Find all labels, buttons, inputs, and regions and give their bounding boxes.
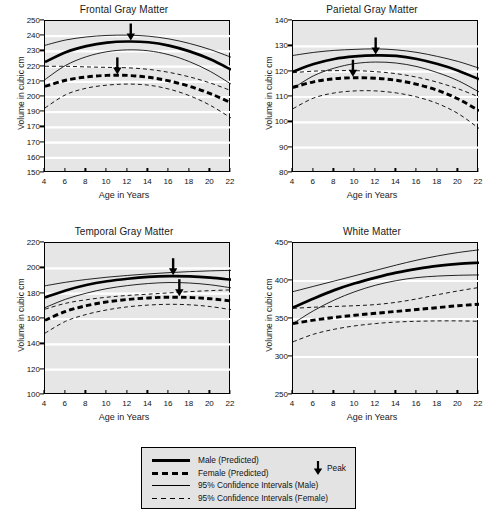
series-line <box>293 62 479 92</box>
x-tick-label: 10 <box>350 399 359 408</box>
chart-title: Frontal Gray Matter <box>0 4 248 15</box>
y-tick-mark <box>288 355 292 356</box>
y-tick-label: 220 <box>27 61 40 70</box>
y-tick-mark <box>40 141 44 142</box>
y-tick-label: 170 <box>27 122 40 131</box>
legend-item-label: Male (Predicted) <box>198 455 259 465</box>
series-line <box>45 75 231 103</box>
legend-item-female-pred: Female (Predicted) <box>150 467 328 480</box>
y-tick-label: 200 <box>27 92 40 101</box>
y-tick-label: 240 <box>27 31 40 40</box>
x-tick-label: 16 <box>412 399 421 408</box>
x-tick-mark <box>333 168 334 172</box>
legend-item-label: 95% Confidence Intervals (Male) <box>198 480 318 490</box>
x-tick-label: 12 <box>370 399 379 408</box>
x-tick-mark <box>395 390 396 394</box>
x-tick-mark <box>43 168 44 172</box>
y-tick-mark <box>40 50 44 51</box>
x-tick-label: 18 <box>184 399 193 408</box>
x-tick-label: 14 <box>391 399 400 408</box>
y-tick-label: 250 <box>27 16 40 25</box>
y-tick-mark <box>40 111 44 112</box>
x-tick-label: 16 <box>412 177 421 186</box>
legend-swatch-female-pred <box>150 467 192 479</box>
x-tick-mark <box>64 390 65 394</box>
x-tick-mark <box>415 390 416 394</box>
series-line <box>293 250 479 292</box>
x-tick-mark <box>436 168 437 172</box>
series-line <box>45 42 231 70</box>
x-tick-label: 4 <box>290 399 294 408</box>
y-tick-label: 160 <box>27 152 40 161</box>
y-tick-label: 120 <box>27 364 40 373</box>
y-tick-label: 100 <box>275 117 288 126</box>
plot-svg <box>45 21 231 173</box>
x-tick-label: 22 <box>226 177 235 186</box>
x-tick-label: 16 <box>164 177 173 186</box>
x-axis-ticks: 46810121416182022 <box>44 172 230 188</box>
x-tick-mark <box>167 168 168 172</box>
x-tick-label: 6 <box>62 399 66 408</box>
x-tick-label: 8 <box>331 399 335 408</box>
x-axis-label: Age in Years <box>0 190 248 200</box>
y-tick-mark <box>40 19 44 20</box>
x-axis-label: Age in Years <box>248 190 496 200</box>
chart-title: White Matter <box>248 226 496 237</box>
y-tick-mark <box>40 65 44 66</box>
x-tick-mark <box>209 168 210 172</box>
legend-swatch-male-pred <box>150 454 192 466</box>
chart-panel-temporal-gray-matter: Temporal Gray MatterVolume in cubic cm22… <box>0 222 248 434</box>
x-tick-mark <box>415 168 416 172</box>
series-line <box>293 71 479 97</box>
x-tick-label: 10 <box>102 177 111 186</box>
x-tick-mark <box>167 390 168 394</box>
y-tick-label: 230 <box>27 46 40 55</box>
plot-area <box>44 242 230 394</box>
y-tick-label: 80 <box>279 168 288 177</box>
y-axis-ticks: 250240230220210200190170170160150 <box>10 20 40 172</box>
y-tick-label: 200 <box>27 263 40 272</box>
x-tick-mark <box>229 390 230 394</box>
x-axis-label: Age in Years <box>0 412 248 422</box>
x-tick-mark <box>64 168 65 172</box>
plot-area <box>44 20 230 172</box>
y-tick-label: 450 <box>275 238 288 247</box>
y-tick-label: 90 <box>279 142 288 151</box>
y-tick-mark <box>40 35 44 36</box>
x-tick-mark <box>312 168 313 172</box>
x-tick-mark <box>333 390 334 394</box>
chart-panel-parietal-gray-matter: Parietal Gray MatterVolume in cubic cm14… <box>248 0 496 212</box>
x-tick-mark <box>477 390 478 394</box>
y-tick-label: 190 <box>27 107 40 116</box>
y-tick-mark <box>288 70 292 71</box>
x-tick-label: 6 <box>310 399 314 408</box>
x-tick-mark <box>209 390 210 394</box>
legend-item-label: 95% Confidence Intervals (Female) <box>198 493 328 503</box>
y-tick-label: 140 <box>27 339 40 348</box>
y-tick-mark <box>40 95 44 96</box>
y-tick-label: 250 <box>275 390 288 399</box>
x-axis-ticks: 46810121416182022 <box>292 172 478 188</box>
y-tick-mark <box>40 292 44 293</box>
x-tick-label: 8 <box>331 177 335 186</box>
x-axis-ticks: 46810121416182022 <box>292 394 478 410</box>
y-axis-ticks: 220200180160140120100 <box>10 242 40 394</box>
legend-item-male-pred: Male (Predicted) <box>150 454 328 467</box>
y-axis-ticks: 450400350300250 <box>258 242 288 394</box>
x-tick-label: 20 <box>205 177 214 186</box>
y-tick-label: 210 <box>27 76 40 85</box>
y-tick-mark <box>40 80 44 81</box>
x-tick-mark <box>85 168 86 172</box>
x-tick-mark <box>147 168 148 172</box>
x-tick-label: 10 <box>102 399 111 408</box>
x-tick-label: 14 <box>143 399 152 408</box>
plot-svg <box>293 243 479 395</box>
x-tick-mark <box>188 390 189 394</box>
y-tick-mark <box>40 126 44 127</box>
x-tick-label: 4 <box>42 177 46 186</box>
legend-swatch-female-ci <box>150 492 192 504</box>
x-tick-label: 20 <box>205 399 214 408</box>
x-tick-mark <box>477 168 478 172</box>
peak-arrow-icon <box>127 24 135 41</box>
legend-peak-label: Peak <box>327 463 346 473</box>
